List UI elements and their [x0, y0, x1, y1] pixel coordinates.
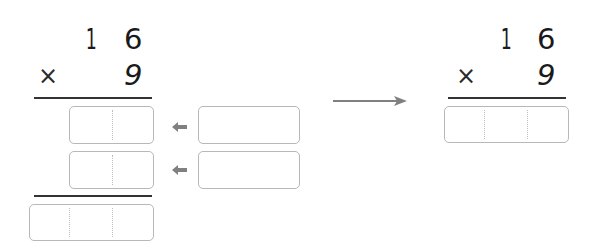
left-multiplicand-tens-digit: 1: [86, 25, 97, 54]
right-product-rule: [448, 97, 566, 99]
right-multiplier-digit: 9: [537, 61, 555, 90]
cell-divider: [112, 208, 113, 237]
left-result-box[interactable]: [29, 204, 154, 241]
partial-product-box-1[interactable]: [69, 106, 154, 144]
small-left-arrow-icon: [172, 165, 188, 175]
cell-divider: [527, 110, 528, 139]
cell-divider: [484, 110, 485, 139]
left-multiply-sign: ×: [38, 64, 58, 88]
left-sum-rule: [34, 195, 152, 197]
right-multiplicand-ones-digit: 6: [537, 25, 555, 54]
right-result-box[interactable]: [444, 106, 569, 143]
helper-product-box-1[interactable]: [198, 106, 300, 144]
left-multiplicand-ones-digit: 6: [124, 25, 142, 54]
small-left-arrow-icon: [172, 122, 188, 132]
partial-product-box-2[interactable]: [69, 151, 154, 189]
cell-divider: [112, 110, 113, 140]
cell-divider: [69, 208, 70, 237]
cell-divider: [112, 155, 113, 185]
left-product-rule: [34, 97, 152, 99]
helper-product-box-2[interactable]: [198, 151, 300, 189]
right-arrow-icon: [332, 95, 408, 107]
right-multiply-sign: ×: [456, 64, 476, 88]
left-multiplier-digit: 9: [124, 61, 142, 90]
right-multiplicand-tens-digit: 1: [501, 25, 512, 54]
